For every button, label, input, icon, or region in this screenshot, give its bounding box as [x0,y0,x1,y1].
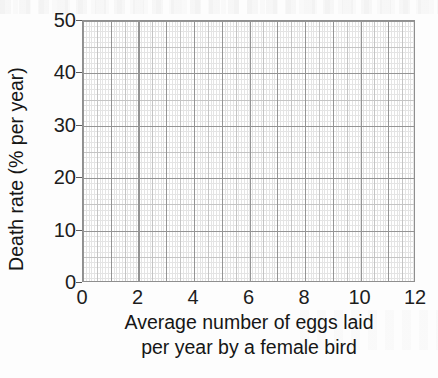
x-tick-label-4: 4 [171,287,215,307]
y-tick-mark-40 [76,72,82,73]
y-tick-mark-10 [76,230,82,231]
y-tick-mark-50 [76,20,82,21]
graph-figure: 50 40 30 20 10 0 0 2 4 6 8 10 12 Death r… [0,0,438,378]
x-tick-label-0: 0 [60,287,104,307]
x-tick-label-6: 6 [227,287,271,307]
plot-area-graph-paper [82,20,415,282]
x-axis-ticks: 0 2 4 6 8 10 12 [82,283,415,311]
y-axis-ticks: 50 40 30 20 10 0 [30,20,76,282]
x-tick-label-12: 12 [393,287,437,307]
y-axis-title-wrapper: Death rate (% per year) [2,18,32,284]
x-tick-label-2: 2 [116,287,160,307]
y-axis-title: Death rate (% per year) [2,38,30,300]
y-tick-label-50: 50 [36,10,76,30]
y-tick-label-40: 40 [36,62,76,82]
y-tick-label-30: 30 [36,115,76,135]
x-axis-title-line-1: Average number of eggs laid [60,310,438,335]
x-axis-title-line-2: per year by a female bird [60,335,438,360]
x-axis-title: Average number of eggs laid per year by … [60,310,438,360]
x-tick-label-10: 10 [338,287,382,307]
y-tick-label-20: 20 [36,167,76,187]
x-tick-label-8: 8 [282,287,326,307]
y-tick-mark-20 [76,177,82,178]
y-tick-label-10: 10 [36,220,76,240]
y-tick-mark-30 [76,125,82,126]
